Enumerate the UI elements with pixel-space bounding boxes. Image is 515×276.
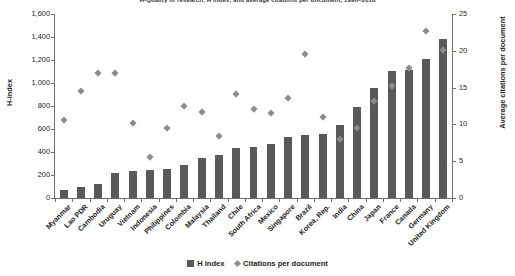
x-tickmark-22 bbox=[435, 199, 436, 202]
plot-area bbox=[55, 14, 452, 198]
y-tickmark-right-5 bbox=[453, 161, 456, 162]
x-tickmark-13 bbox=[279, 199, 280, 202]
x-tickmark-10 bbox=[228, 199, 229, 202]
x-axis-line bbox=[54, 198, 453, 199]
x-tickmark-19 bbox=[383, 199, 384, 202]
x-tickmark-21 bbox=[417, 199, 418, 202]
y-tick-right-10: 10 bbox=[459, 120, 467, 128]
bar-thailand bbox=[215, 155, 223, 198]
diamond-swatch-icon bbox=[234, 260, 241, 267]
y-tick-left-1400: 1,400 bbox=[32, 33, 51, 41]
y-tick-right-25: 25 bbox=[459, 10, 467, 18]
y-tick-left-1000: 1,000 bbox=[32, 79, 51, 87]
y-tickmark-left-1600 bbox=[51, 14, 54, 15]
y-tickmark-right-20 bbox=[453, 51, 456, 52]
y-tickmark-right-25 bbox=[453, 14, 456, 15]
x-label-china: China bbox=[346, 203, 366, 223]
legend-label: H index bbox=[197, 259, 224, 268]
x-tickmark-8 bbox=[193, 199, 194, 202]
bar-philippines bbox=[163, 169, 171, 198]
x-tickmark-9 bbox=[210, 199, 211, 202]
bar-malaysia bbox=[198, 158, 206, 198]
square-swatch-icon bbox=[187, 260, 194, 267]
x-tickmark-1 bbox=[72, 199, 73, 202]
bar-lao-pdr bbox=[77, 187, 85, 198]
y-axis-right-title: Average citations per document bbox=[498, 3, 507, 143]
y-tick-right-0: 0 bbox=[459, 194, 463, 202]
x-tickmark-3 bbox=[107, 199, 108, 202]
chart-figure: H-Quality of research, H index, and aver… bbox=[0, 0, 515, 276]
x-tickmark-15 bbox=[314, 199, 315, 202]
bar-myanmar bbox=[60, 190, 68, 198]
bar-vietnam bbox=[129, 171, 137, 198]
bar-singapore bbox=[284, 137, 292, 198]
legend-item-h-index: H index bbox=[187, 259, 224, 268]
bar-chile bbox=[232, 148, 240, 198]
bar-brazil bbox=[301, 135, 309, 198]
bar-south-africa bbox=[250, 147, 258, 198]
y-tickmark-left-800 bbox=[51, 106, 54, 107]
legend-label: Citations per document bbox=[243, 259, 328, 268]
y-tick-left-400: 400 bbox=[38, 148, 50, 156]
x-tickmark-0 bbox=[55, 199, 56, 202]
bar-indonesia bbox=[146, 170, 154, 198]
x-tickmark-11 bbox=[245, 199, 246, 202]
x-tickmark-16 bbox=[331, 199, 332, 202]
x-tickmark-18 bbox=[366, 199, 367, 202]
bar-mexico bbox=[267, 144, 275, 198]
x-tickmark-17 bbox=[348, 199, 349, 202]
x-tickmark-2 bbox=[90, 199, 91, 202]
bar-united-kingdom bbox=[439, 39, 447, 198]
bar-china bbox=[353, 107, 361, 198]
y-tick-left-1200: 1,200 bbox=[32, 56, 51, 64]
x-tickmark-5 bbox=[141, 199, 142, 202]
y-tick-right-20: 20 bbox=[459, 47, 467, 55]
y-tickmark-left-400 bbox=[51, 152, 54, 153]
x-axis-category-labels: MyanmarLao PDRCambodiaUruguayVietnamIndo… bbox=[55, 203, 452, 255]
y-tickmark-left-1000 bbox=[51, 83, 54, 84]
bar-germany bbox=[422, 59, 430, 198]
bar-canada bbox=[405, 70, 413, 198]
y-tick-right-5: 5 bbox=[459, 157, 463, 165]
x-tickmark-20 bbox=[400, 199, 401, 202]
y-tick-left-800: 800 bbox=[38, 102, 50, 110]
y-axis-right-line bbox=[452, 14, 453, 199]
y-tick-left-0: 0 bbox=[46, 194, 50, 202]
x-tickmark-7 bbox=[176, 199, 177, 202]
chart-title: H-Quality of research, H index, and aver… bbox=[0, 0, 515, 4]
bar-korea-rep bbox=[319, 134, 327, 198]
y-tickmark-right-10 bbox=[453, 124, 456, 125]
bar-colombia bbox=[180, 165, 188, 198]
x-tickmark-12 bbox=[262, 199, 263, 202]
x-tickmark-14 bbox=[297, 199, 298, 202]
y-tickmark-left-0 bbox=[51, 198, 54, 199]
x-tickmark-6 bbox=[159, 199, 160, 202]
y-tickmark-left-600 bbox=[51, 129, 54, 130]
y-axis-left-ticklabels: 02004006008001,0001,2001,4001,600 bbox=[10, 0, 50, 276]
y-axis-right-ticklabels: 0510152025 bbox=[459, 0, 489, 276]
y-tickmark-right-15 bbox=[453, 88, 456, 89]
x-tickmark-23 bbox=[452, 199, 453, 202]
y-tick-left-600: 600 bbox=[38, 125, 50, 133]
y-tickmark-right-0 bbox=[453, 198, 456, 199]
chart-legend: H indexCitations per document bbox=[0, 259, 515, 268]
bar-cambodia bbox=[94, 184, 102, 198]
y-tick-right-15: 15 bbox=[459, 84, 467, 92]
y-tickmark-left-200 bbox=[51, 175, 54, 176]
y-tickmark-left-1400 bbox=[51, 37, 54, 38]
y-tickmark-left-1200 bbox=[51, 60, 54, 61]
y-tick-left-200: 200 bbox=[38, 171, 50, 179]
bar-uruguay bbox=[111, 173, 119, 198]
x-tickmark-4 bbox=[124, 199, 125, 202]
y-tick-left-1600: 1,600 bbox=[32, 10, 51, 18]
legend-item-citations-per-document: Citations per document bbox=[235, 259, 328, 268]
